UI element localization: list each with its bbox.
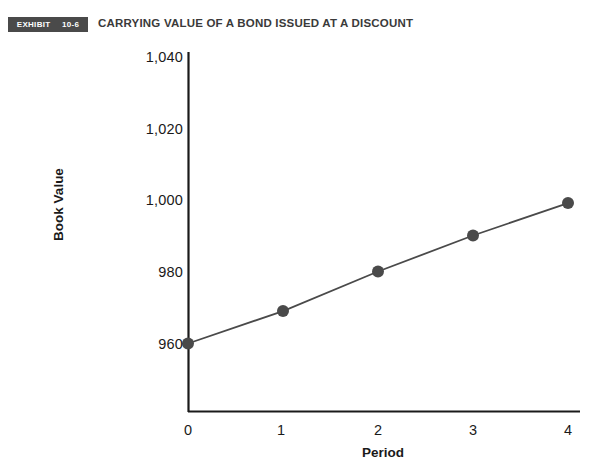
ytick-label-1040: 1,040 — [131, 49, 183, 65]
data-point-period-3 — [467, 230, 479, 242]
chart-plot-area: 1,040 1,020 1,000 980 960 0 1 2 3 4 Book… — [0, 0, 596, 469]
xtick-label-0: 0 — [173, 422, 203, 438]
y-axis-label: Book Value — [51, 135, 66, 275]
ytick-label-960: 960 — [131, 336, 183, 352]
data-point-period-2 — [372, 266, 384, 278]
x-axis-label: Period — [318, 445, 448, 460]
data-point-period-1 — [277, 305, 289, 317]
xtick-label-1: 1 — [266, 422, 296, 438]
xtick-label-3: 3 — [458, 422, 488, 438]
chart-svg — [0, 0, 596, 469]
ytick-label-980: 980 — [131, 264, 183, 280]
ytick-label-1000: 1,000 — [131, 192, 183, 208]
ytick-label-1020: 1,020 — [131, 121, 183, 137]
data-point-period-0 — [182, 338, 194, 350]
xtick-label-2: 2 — [363, 422, 393, 438]
data-point-period-4 — [562, 197, 574, 209]
series-markers-group — [182, 197, 574, 349]
xtick-label-4: 4 — [553, 422, 583, 438]
